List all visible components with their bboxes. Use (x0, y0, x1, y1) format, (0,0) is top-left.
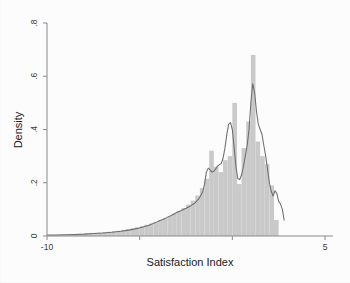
histogram-bar (172, 214, 177, 236)
histogram-bar (251, 55, 256, 236)
histogram-bar (154, 222, 159, 236)
histogram-bar (205, 179, 210, 236)
histogram-bar (228, 156, 233, 236)
histogram-bar (163, 218, 168, 236)
histogram-bar (186, 205, 191, 236)
chart-background (0, 0, 350, 283)
histogram-density-figure: 0.2.4.6.8 -105 Density Satisfaction Inde… (0, 0, 350, 283)
histogram-bar (209, 151, 214, 236)
x-axis-title: Satisfaction Index (147, 256, 234, 268)
histogram-bar (177, 211, 182, 236)
y-axis-title: Density (12, 111, 24, 148)
histogram-bar (237, 184, 242, 236)
histogram-bar (260, 156, 265, 236)
histogram-bar (167, 216, 172, 236)
x-tick-label: 5 (323, 242, 328, 252)
histogram-bar (158, 220, 163, 236)
histogram-bar (214, 167, 219, 236)
y-tick-label: 0 (29, 233, 39, 238)
histogram-bar (274, 220, 279, 236)
y-tick-label: .6 (29, 72, 39, 79)
y-tick-label: .4 (29, 126, 39, 133)
histogram-bar (181, 208, 186, 236)
x-tick-label: -10 (41, 242, 54, 252)
chart-canvas: 0.2.4.6.8 -105 Density Satisfaction Inde… (0, 0, 350, 283)
histogram-bar (256, 141, 261, 236)
histogram-bar (246, 122, 251, 236)
y-tick-label: .8 (29, 19, 39, 26)
y-tick-label: .2 (29, 179, 39, 186)
histogram-bar (223, 160, 228, 236)
histogram-bar (218, 172, 223, 236)
